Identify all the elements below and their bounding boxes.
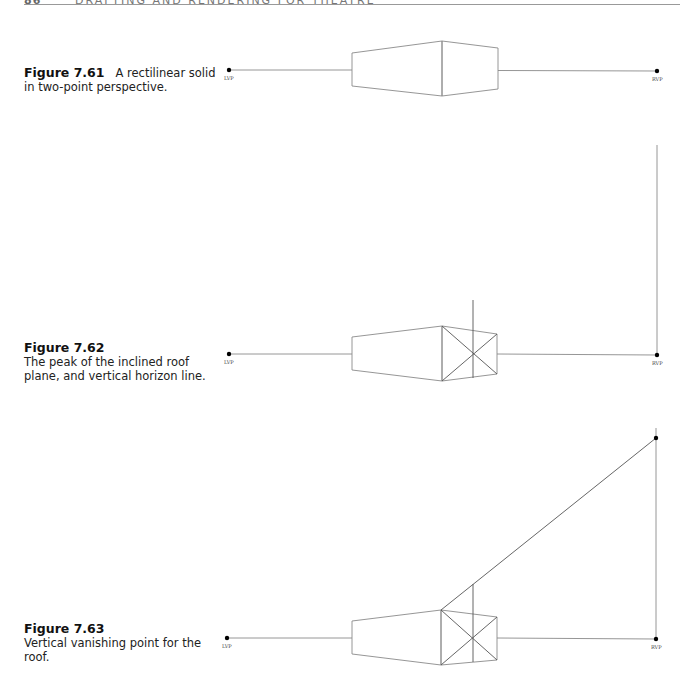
lvp-label: LVP [222,643,232,649]
horizon-line-right [497,638,656,639]
rvp-dot [654,637,658,641]
rvp-label: RVP [651,644,662,650]
right-face [441,610,497,665]
lvp-dot [225,636,229,640]
vertical-vanishing-point-dot [654,436,658,440]
roof-incline-line [441,438,656,610]
diagonal-1 [441,610,497,660]
diagonal-2 [441,617,497,665]
figure-7-63-drawing: LVP RVP [0,0,680,673]
left-face [352,610,441,665]
